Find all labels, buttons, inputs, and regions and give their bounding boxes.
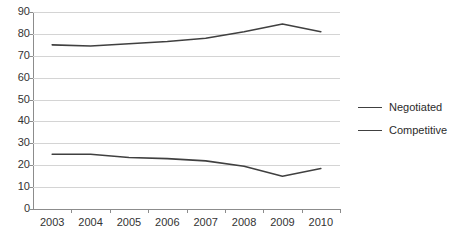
y-tick-label: 10 <box>2 181 30 192</box>
y-tick-label: 70 <box>2 50 30 61</box>
legend-line-icon <box>358 102 382 113</box>
chart-legend: Negotiated Competitive <box>358 98 449 144</box>
plot-area <box>33 12 340 209</box>
line-chart: 0102030405060708090 20032004200520062007… <box>0 0 449 237</box>
x-tick-label: 2009 <box>270 216 294 228</box>
x-tick-mark <box>302 209 303 213</box>
x-tick-label: 2003 <box>40 216 64 228</box>
x-tick-mark <box>148 209 149 213</box>
x-axis-tick-labels: 20032004200520062007200820092010 <box>0 216 449 232</box>
legend-line-icon <box>358 125 382 136</box>
x-tick-mark <box>187 209 188 213</box>
x-tick-mark <box>225 209 226 213</box>
x-tick-label: 2010 <box>309 216 333 228</box>
x-tick-label: 2007 <box>193 216 217 228</box>
legend-item-label: Negotiated <box>389 101 442 113</box>
x-tick-label: 2004 <box>78 216 102 228</box>
x-tick-label: 2005 <box>117 216 141 228</box>
x-tick-mark <box>71 209 72 213</box>
x-tick-mark <box>110 209 111 213</box>
y-tick-label: 90 <box>2 6 30 17</box>
x-tick-label: 2006 <box>155 216 179 228</box>
series-container <box>33 12 340 209</box>
y-tick-label: 80 <box>2 28 30 39</box>
legend-item-competitive: Competitive <box>358 121 449 139</box>
legend-item-negotiated: Negotiated <box>358 98 449 116</box>
y-tick-label: 0 <box>2 203 30 214</box>
x-tick-label: 2008 <box>232 216 256 228</box>
x-tick-mark <box>340 209 341 213</box>
legend-item-label: Competitive <box>389 124 447 136</box>
series-line-negotiated <box>52 24 321 46</box>
y-axis-tick-labels: 0102030405060708090 <box>0 0 30 237</box>
y-tick-label: 20 <box>2 159 30 170</box>
y-tick-label: 50 <box>2 94 30 105</box>
y-tick-label: 30 <box>2 137 30 148</box>
y-tick-label: 40 <box>2 115 30 126</box>
series-line-competitive <box>52 154 321 176</box>
x-tick-mark <box>263 209 264 213</box>
y-tick-label: 60 <box>2 72 30 83</box>
